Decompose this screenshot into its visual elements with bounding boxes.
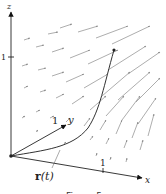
y-tick-label: 1 bbox=[52, 115, 58, 126]
figure-caption: Figure 5 bbox=[66, 191, 102, 194]
vector-field-figure: z 1 x 1 1 y r(t) Figure 5 bbox=[0, 0, 166, 194]
curve-label-param: (t) bbox=[41, 170, 54, 183]
x-axis-label: x bbox=[145, 175, 150, 185]
z-axis-label: z bbox=[6, 2, 12, 11]
z-tick-label: 1 bbox=[1, 53, 6, 62]
curve-start-point bbox=[9, 154, 13, 158]
curve-label: r(t) bbox=[35, 170, 54, 183]
y-axis-label: y bbox=[67, 114, 74, 125]
x-tick-label: 1 bbox=[100, 158, 106, 168]
curve-end-point bbox=[112, 48, 115, 51]
curve-r-of-t bbox=[11, 50, 114, 156]
vector-field-arrows bbox=[22, 24, 160, 162]
x-axis bbox=[11, 156, 142, 178]
r-of-t-leader bbox=[52, 150, 60, 168]
